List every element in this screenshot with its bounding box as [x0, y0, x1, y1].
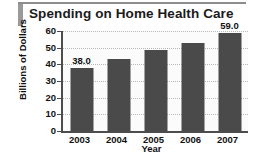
- bar[interactable]: [70, 68, 93, 131]
- bar[interactable]: [218, 33, 241, 131]
- chart-page: Spending on Home Health Care Billions of…: [0, 0, 254, 157]
- y-tick-label: 60: [34, 26, 56, 36]
- bar-slot: 59.0: [211, 31, 248, 131]
- y-tick-label: 40: [34, 59, 56, 69]
- y-tick-label: 20: [34, 93, 56, 103]
- y-tick-label: 50: [34, 43, 56, 53]
- chart-title: Spending on Home Health Care: [29, 6, 234, 21]
- y-tick-mark: [57, 98, 61, 99]
- bar[interactable]: [144, 50, 167, 131]
- bar-value-label: 59.0: [220, 20, 239, 31]
- y-tick-mark: [57, 131, 61, 132]
- y-tick-mark: [57, 31, 61, 32]
- y-tick-label: 0: [34, 126, 56, 136]
- y-axis-label: Billions of Dollars: [17, 17, 28, 103]
- bar-slot: [100, 31, 137, 131]
- bar[interactable]: [181, 43, 204, 131]
- y-tick-label: 10: [34, 109, 56, 119]
- y-tick-mark: [57, 114, 61, 115]
- y-tick-mark: [57, 48, 61, 49]
- y-tick-mark: [57, 64, 61, 65]
- plot-area: 38.059.0: [61, 31, 248, 133]
- bar[interactable]: [107, 59, 130, 131]
- bar-slot: [174, 31, 211, 131]
- y-tick-label: 30: [34, 76, 56, 86]
- bar-series: 38.059.0: [63, 31, 248, 131]
- bar-slot: 38.0: [63, 31, 100, 131]
- x-axis-label: Year: [57, 143, 246, 154]
- bar-slot: [137, 31, 174, 131]
- y-tick-mark: [57, 81, 61, 82]
- bar-value-label: 38.0: [72, 55, 91, 66]
- chart-title-block: Spending on Home Health Care: [18, 4, 246, 26]
